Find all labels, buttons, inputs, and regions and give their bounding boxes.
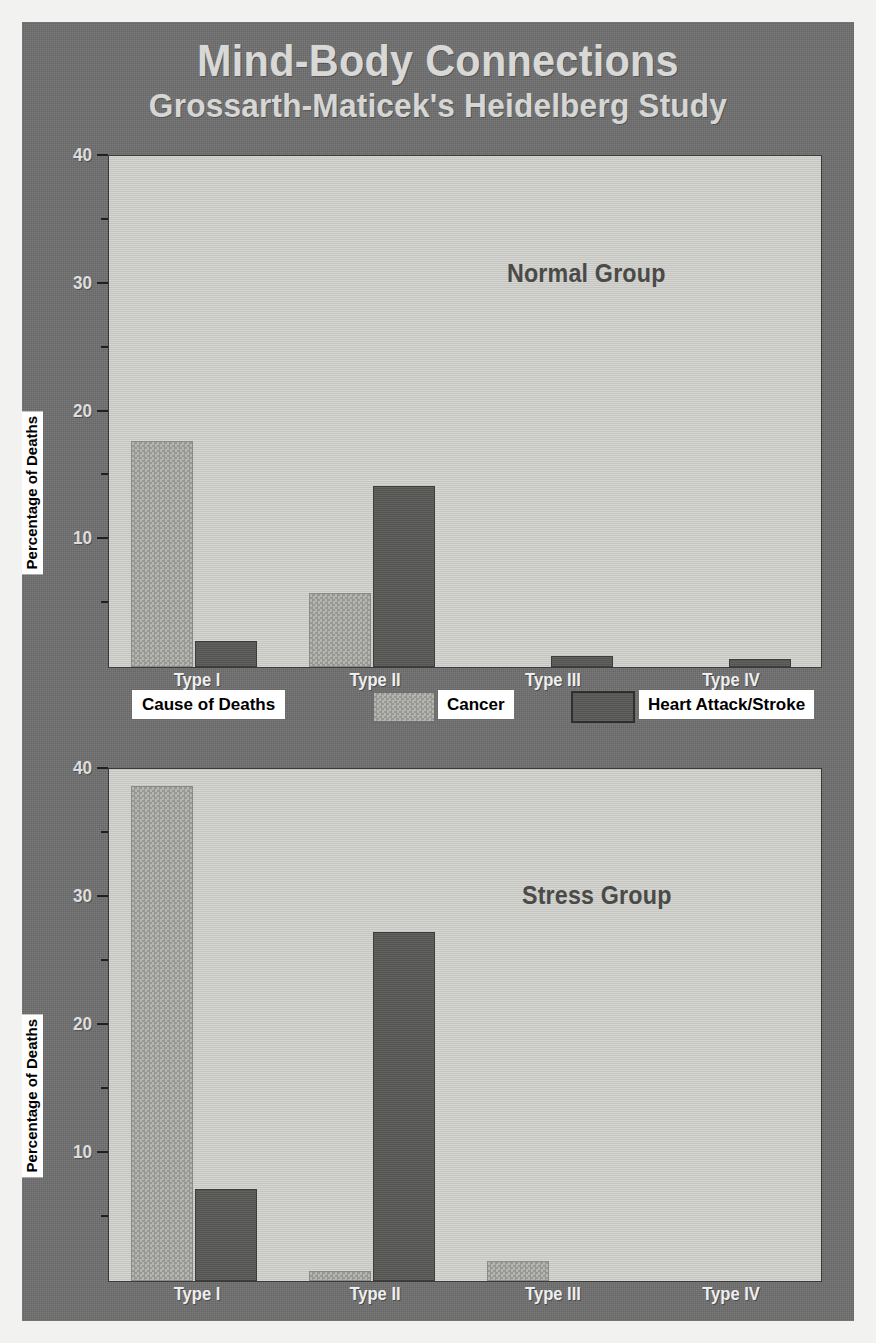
x-axis-labels-bottom: Type IType IIType IIIType IV <box>108 1284 820 1318</box>
y-tick-major <box>97 282 108 284</box>
x-axis-label-type-iii: Type III <box>471 1284 635 1305</box>
bar-normal-type-ii-heart-attack <box>373 486 435 667</box>
x-axis-label-type-i: Type I <box>115 1284 279 1305</box>
poster-title-block: Mind-Body Connections Grossarth-Maticek'… <box>22 36 854 124</box>
y-tick-minor <box>101 959 108 961</box>
y-axis-tick-label: 20 <box>73 1013 92 1035</box>
y-tick-major <box>97 154 108 156</box>
y-tick-minor <box>101 1087 108 1089</box>
bar-stress-type-i-cancer <box>131 786 193 1281</box>
y-axis-tick-label: 10 <box>73 527 92 549</box>
y-axis-tick-label: 30 <box>73 272 92 294</box>
y-axis-tick-label: 20 <box>73 400 92 422</box>
poster-page: Mind-Body Connections Grossarth-Maticek'… <box>0 0 876 1343</box>
y-axis-tick-label: 30 <box>73 885 92 907</box>
chart-normal-group: Percentage of Deaths 40302010 Normal Gro… <box>22 133 854 678</box>
legend-label-cancer: Cancer <box>438 690 514 719</box>
y-tick-major <box>97 537 108 539</box>
bar-normal-type-iv-heart-attack <box>729 659 791 667</box>
bar-normal-type-i-heart-attack <box>195 641 257 667</box>
y-tick-minor <box>101 346 108 348</box>
legend-label-heart-attack: Heart Attack/Stroke <box>639 690 814 719</box>
y-tick-minor <box>101 218 108 220</box>
x-axis-label-type-iv: Type IV <box>649 1284 813 1305</box>
y-tick-minor <box>101 1215 108 1217</box>
plot-area-normal-group: Normal Group <box>108 155 822 668</box>
y-tick-major <box>97 895 108 897</box>
bar-stress-type-ii-heart-attack <box>373 932 435 1281</box>
poster-panel: Mind-Body Connections Grossarth-Maticek'… <box>22 22 854 1321</box>
group-label-stress: Stress Group <box>522 881 672 910</box>
y-axis-tick-label: 40 <box>73 144 92 166</box>
y-axis-title-bottom: Percentage of Deaths <box>22 1014 43 1177</box>
x-axis-label-type-i: Type I <box>115 670 279 691</box>
y-tick-major <box>97 1023 108 1025</box>
y-tick-major <box>97 767 108 769</box>
y-axis-tick-label: 10 <box>73 1141 92 1163</box>
y-axis-bottom: Percentage of Deaths 40302010 <box>22 746 108 1311</box>
bar-stress-type-ii-cancer <box>309 1271 371 1281</box>
y-tick-minor <box>101 473 108 475</box>
y-axis-tick-label: 40 <box>73 757 92 779</box>
poster-title: Mind-Body Connections <box>55 36 820 86</box>
y-tick-major <box>97 1151 108 1153</box>
bar-normal-type-iii-heart-attack <box>551 656 613 667</box>
x-axis-label-type-ii: Type II <box>293 670 457 691</box>
plot-area-stress-group: Stress Group <box>108 768 822 1282</box>
bar-stress-type-i-heart-attack <box>195 1189 257 1281</box>
y-axis-title-top: Percentage of Deaths <box>22 411 43 574</box>
chart-stress-group: Percentage of Deaths 40302010 Stress Gro… <box>22 746 854 1311</box>
bar-normal-type-i-cancer <box>131 441 193 667</box>
y-tick-major <box>97 410 108 412</box>
poster-subtitle: Grossarth-Maticek's Heidelberg Study <box>51 86 825 124</box>
x-axis-label-type-ii: Type II <box>293 1284 457 1305</box>
legend-swatch-cancer-icon <box>372 691 436 723</box>
x-axis-label-type-iii: Type III <box>471 670 635 691</box>
bar-normal-type-ii-cancer <box>309 593 371 667</box>
bar-stress-type-iii-cancer <box>487 1261 549 1281</box>
group-label-normal: Normal Group <box>507 259 666 288</box>
x-axis-label-type-iv: Type IV <box>649 670 813 691</box>
y-tick-minor <box>101 831 108 833</box>
chart-legend: Cause of Deaths Cancer Heart Attack/Stro… <box>132 690 832 724</box>
y-axis-top: Percentage of Deaths 40302010 <box>22 133 108 678</box>
y-tick-minor <box>101 601 108 603</box>
legend-title: Cause of Deaths <box>132 690 285 719</box>
legend-swatch-heart-attack-icon <box>571 691 635 723</box>
